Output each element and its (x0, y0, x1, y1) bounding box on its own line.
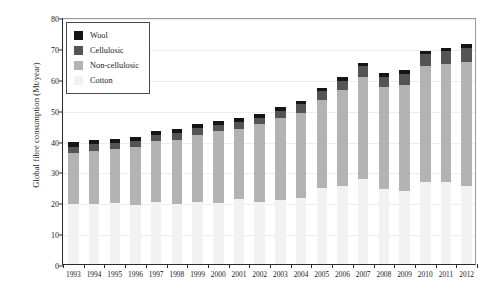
bar-segment-wool (275, 107, 286, 111)
bar-segment-non-cellulosic (151, 141, 162, 202)
x-axis-tick-label: 2002 (252, 270, 267, 279)
x-axis-tick-mark (63, 264, 64, 268)
x-axis-tick-mark (436, 264, 437, 268)
bar-segment-cellulosic (192, 128, 203, 134)
legend-item: Cotton (74, 73, 139, 88)
x-axis-tick-mark (146, 264, 147, 268)
x-axis-tick-label: 1993 (66, 270, 81, 279)
bar-segment-cellulosic (420, 54, 431, 66)
bar-segment-non-cellulosic (399, 85, 410, 192)
x-axis-tick-label: 2006 (335, 270, 350, 279)
bar-segment-wool (420, 51, 431, 54)
bar-segment-cotton (399, 191, 410, 264)
bar-segment-non-cellulosic (89, 151, 100, 203)
bar-segment-non-cellulosic (461, 62, 472, 186)
legend-item-label: Cellulosic (90, 46, 124, 55)
x-axis-tick-label: 1996 (128, 270, 143, 279)
legend-item-label: Wool (90, 31, 108, 40)
bar-segment-cellulosic (296, 104, 307, 112)
x-axis-tick-label: 1999 (190, 270, 205, 279)
bar-segment-wool (461, 44, 472, 47)
y-axis-tick-label: 40 (51, 138, 59, 147)
bar-segment-cellulosic (172, 133, 183, 139)
bar-segment-non-cellulosic (317, 100, 328, 188)
x-axis-tick-mark (229, 264, 230, 268)
bar-segment-wool (441, 48, 452, 51)
bar-segment-cotton (110, 203, 121, 264)
bar-segment-non-cellulosic (275, 118, 286, 200)
bar-segment-cellulosic (213, 125, 224, 131)
bar-segment-cellulosic (461, 48, 472, 62)
bar-segment-cellulosic (89, 144, 100, 151)
bar-segment-cotton (130, 205, 141, 264)
bar-segment-cotton (296, 198, 307, 264)
x-axis-tick-label: 2001 (232, 270, 247, 279)
x-axis-tick-mark (477, 264, 478, 268)
bar-segment-cotton (254, 202, 265, 264)
bar-segment-cotton (192, 202, 203, 264)
x-axis-tick-mark (208, 264, 209, 268)
bar-segment-non-cellulosic (234, 129, 245, 199)
bar-segment-non-cellulosic (358, 77, 369, 180)
bar-segment-cotton (213, 203, 224, 264)
bar-segment-cotton (68, 204, 79, 264)
bar-segment-wool (234, 118, 245, 122)
bar-segment-cotton (317, 188, 328, 264)
legend-swatch-icon (74, 76, 83, 85)
y-axis-tick-label: 70 (51, 45, 59, 54)
bar-segment-cellulosic (254, 118, 265, 125)
x-axis-tick-label: 2000 (211, 270, 226, 279)
bar-segment-non-cellulosic (110, 149, 121, 202)
x-axis-tick-mark (332, 264, 333, 268)
bar-segment-wool (172, 129, 183, 133)
bar-segment-cotton (420, 182, 431, 264)
bar-segment-cellulosic (68, 147, 79, 154)
bar-segment-wool (399, 70, 410, 73)
legend-swatch-icon (74, 46, 83, 55)
x-axis-tick-label: 2003 (273, 270, 288, 279)
bar-segment-cotton (461, 186, 472, 264)
x-axis-tick-mark (84, 264, 85, 268)
bar-segment-cellulosic (275, 111, 286, 118)
bar-segment-cotton (379, 189, 390, 264)
bar-segment-cellulosic (130, 141, 141, 147)
bar-segment-cotton (89, 204, 100, 265)
y-axis-tick-label: 80 (51, 15, 59, 24)
bar-segment-cellulosic (317, 91, 328, 100)
bar-segment-wool (110, 139, 121, 143)
y-axis-tick-label: 30 (51, 169, 59, 178)
legend-item-label: Non-cellulosic (90, 61, 139, 70)
bar-segment-non-cellulosic (379, 87, 390, 189)
bar-segment-non-cellulosic (172, 140, 183, 205)
bar-segment-wool (254, 114, 265, 118)
bar-segment-cotton (358, 179, 369, 264)
x-axis-tick-mark (353, 264, 354, 268)
x-axis-tick-label: 2004 (294, 270, 309, 279)
x-axis-tick-label: 2007 (356, 270, 371, 279)
bar-segment-non-cellulosic (213, 131, 224, 203)
x-axis-tick-mark (167, 264, 168, 268)
bar-segment-non-cellulosic (441, 64, 452, 182)
legend-swatch-icon (74, 61, 83, 70)
x-axis-tick-label: 1994 (87, 270, 102, 279)
bar-segment-cotton (441, 182, 452, 264)
x-axis-tick-mark (104, 264, 105, 268)
x-axis-tick-mark (249, 264, 250, 268)
bar-segment-cellulosic (151, 135, 162, 141)
bar-segment-wool (192, 124, 203, 128)
legend-item: Wool (74, 28, 139, 43)
legend-swatch-icon (74, 31, 83, 40)
x-axis-tick-mark (415, 264, 416, 268)
bar-segment-wool (89, 140, 100, 144)
bar-segment-cellulosic (441, 51, 452, 64)
x-axis-tick-mark (394, 264, 395, 268)
x-axis-tick-label: 1995 (107, 270, 122, 279)
x-axis-tick-mark (125, 264, 126, 268)
bar-segment-non-cellulosic (68, 153, 79, 204)
bar-segment-non-cellulosic (420, 66, 431, 182)
x-axis-tick-label: 2011 (439, 270, 454, 279)
x-axis-tick-label: 2008 (376, 270, 391, 279)
bar-segment-wool (296, 101, 307, 105)
y-axis-title: Global fibre consumption (Mt/year) (31, 25, 41, 225)
bar-segment-cellulosic (358, 66, 369, 76)
